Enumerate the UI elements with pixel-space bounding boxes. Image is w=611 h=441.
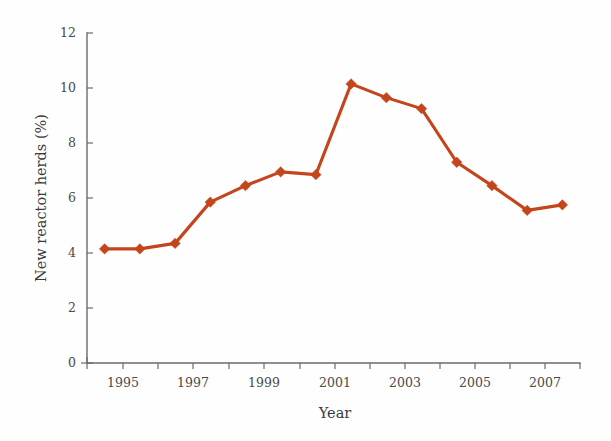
y-axis-title: New reactor herds (%) xyxy=(33,114,49,282)
y-tick-label: 10 xyxy=(60,80,76,95)
series-line-new-reactor-herds xyxy=(105,84,563,249)
x-tick-label: 1995 xyxy=(107,375,139,390)
y-tick-label: 2 xyxy=(68,300,76,315)
x-axis-tick-labels: 1995 1997 1999 2001 2003 2005 2007 xyxy=(107,375,561,390)
x-tick-label: 2005 xyxy=(459,375,491,390)
y-tick-label: 12 xyxy=(60,25,76,40)
x-tick-label: 1997 xyxy=(177,375,209,390)
chart-figure: 0 2 4 6 8 10 12 1995 xyxy=(0,0,611,441)
data-point xyxy=(135,244,145,254)
y-tick-label: 0 xyxy=(68,355,76,370)
y-tick-label: 6 xyxy=(68,190,76,205)
x-tick-label: 2001 xyxy=(319,375,351,390)
series-markers xyxy=(99,79,567,254)
data-point xyxy=(311,169,321,179)
y-tick-label: 8 xyxy=(68,135,76,150)
x-axis-title: Year xyxy=(318,405,352,421)
line-chart: 0 2 4 6 8 10 12 1995 xyxy=(0,0,611,441)
x-tick-label: 2007 xyxy=(529,375,561,390)
data-point xyxy=(240,180,250,190)
y-tick-label: 4 xyxy=(68,245,76,260)
data-point xyxy=(99,244,109,254)
x-tick-label: 1999 xyxy=(248,375,280,390)
data-point xyxy=(346,79,356,89)
data-point xyxy=(381,92,391,102)
x-tick-label: 2003 xyxy=(389,375,421,390)
data-point xyxy=(275,167,285,177)
y-axis-tick-labels: 0 2 4 6 8 10 12 xyxy=(60,25,76,370)
data-point xyxy=(557,200,567,210)
